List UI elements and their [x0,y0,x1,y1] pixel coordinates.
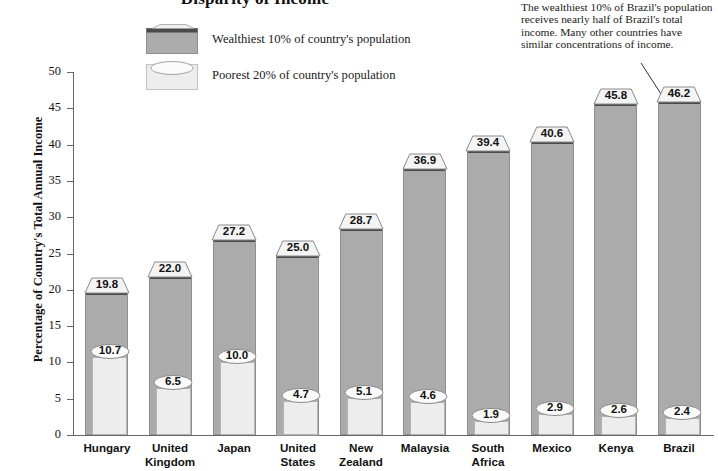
category-label-line: Zealand [321,455,401,469]
y-tick-mark [67,362,73,363]
y-tick-mark [67,399,73,400]
wealthiest-value-label: 19.8 [84,277,130,294]
plaque-value-text: 22.0 [147,261,193,276]
y-tick-mark [67,72,73,73]
y-tick-label: 35 [35,173,61,188]
plaque-value-text: 36.9 [402,153,448,168]
y-tick-label: 30 [35,209,61,224]
poorest-value-label: 5.1 [344,384,384,401]
poorest-bar [156,388,191,435]
poorest-bar [410,402,445,435]
y-tick-label: 50 [35,64,61,79]
poorest-bar [538,414,573,435]
plaque-value-text: 6.5 [153,374,193,389]
wealthiest-value-label: 39.4 [465,135,511,152]
plaque-value-text: 40.6 [529,126,575,141]
y-tick-mark [67,435,73,436]
plaque-value-text: 10.7 [90,343,130,358]
poorest-value-label: 4.6 [408,388,448,405]
y-tick-label: 10 [35,354,61,369]
plaque-value-text: 5.1 [344,384,384,399]
wealthiest-value-label: 22.0 [147,261,193,278]
plaque-value-text: 28.7 [338,213,384,228]
poorest-value-label: 2.6 [599,402,639,419]
wealthiest-bar [531,140,574,435]
y-axis-line [73,72,74,435]
y-tick-label: 25 [35,246,61,261]
legend-item-wealthiest: Wealthiest 10% of country's population [146,24,446,60]
y-tick-mark [67,326,73,327]
dark-gray-3d-swatch [146,24,198,54]
y-tick-mark [67,145,73,146]
y-tick-label: 5 [35,391,61,406]
wealthiest-bar [594,102,637,435]
plaque-value-text: 46.2 [656,86,702,101]
wealthiest-value-label: 40.6 [529,126,575,143]
y-tick-mark [67,181,73,182]
wealthiest-bar [467,149,510,435]
legend-label-wealthiest: Wealthiest 10% of country's population [212,32,411,47]
wealthiest-value-label: 36.9 [402,153,448,170]
y-tick-label: 15 [35,318,61,333]
y-tick-mark [67,108,73,109]
wealthiest-value-label: 27.2 [211,224,257,241]
category-label-line: Africa [448,455,528,469]
legend-label-poorest: Poorest 20% of country's population [212,68,395,83]
wealthiest-value-label: 25.0 [275,240,321,257]
poorest-bar [283,401,318,435]
y-tick-mark [67,290,73,291]
poorest-value-label: 10.7 [90,343,130,360]
plaque-value-text: 4.6 [408,388,448,403]
chart-legend: Wealthiest 10% of country's population P… [146,24,446,96]
plaque-value-text: 2.9 [535,400,575,415]
plaque-value-text: 10.0 [217,348,257,363]
poorest-bar [347,398,382,435]
plaque-value-text: 25.0 [275,240,321,255]
plaque-value-text: 2.4 [662,404,702,419]
plaque-value-text: 39.4 [465,135,511,150]
legend-item-poorest: Poorest 20% of country's population [146,60,446,96]
plaque-value-text: 4.7 [281,387,321,402]
plaque-value-text: 1.9 [471,407,511,422]
light-gray-3d-swatch [146,60,198,90]
poorest-bar [220,362,255,435]
y-tick-label: 0 [35,427,61,442]
wealthiest-value-label: 28.7 [338,213,384,230]
category-label-line: Kingdom [130,455,210,469]
y-tick-mark [67,217,73,218]
wealthiest-value-label: 45.8 [593,88,639,105]
y-tick-label: 20 [35,282,61,297]
income-disparity-chart: Disparity of Income The wealthiest 10% o… [0,0,718,471]
wealthiest-value-label: 46.2 [656,86,702,103]
x-axis-baseline [73,435,714,436]
y-tick-mark [67,254,73,255]
chart-title: Disparity of Income [0,0,510,9]
y-tick-label: 45 [35,100,61,115]
poorest-bar [92,357,127,435]
plaque-value-text: 45.8 [593,88,639,103]
category-label-line: Brazil [639,441,718,455]
plaque-value-text: 27.2 [211,224,257,239]
wealthiest-bar [658,100,701,435]
brazil-annotation: The wealthiest 10% of Brazil's populatio… [521,1,713,51]
poorest-value-label: 2.4 [662,404,702,421]
x-axis-category-label: Brazil [639,441,718,455]
poorest-value-label: 6.5 [153,374,193,391]
plaque-value-text: 2.6 [599,402,639,417]
y-tick-label: 40 [35,137,61,152]
plaque-value-text: 19.8 [84,277,130,292]
poorest-value-label: 4.7 [281,387,321,404]
poorest-value-label: 2.9 [535,400,575,417]
poorest-value-label: 10.0 [217,348,257,365]
poorest-value-label: 1.9 [471,407,511,424]
